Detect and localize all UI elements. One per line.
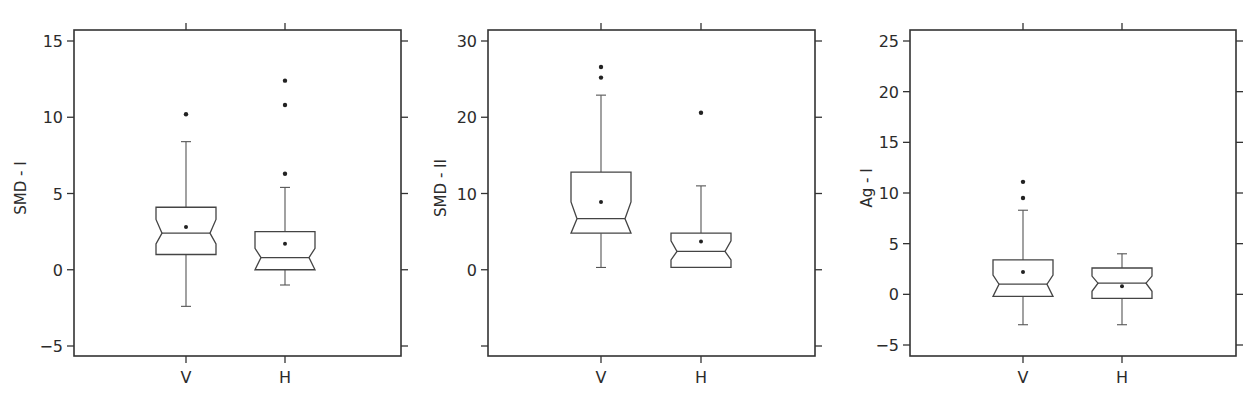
boxplot-figure: −5051015VHSMD - I 0102030VHSMD - II −505…: [0, 0, 1258, 405]
outlier-point: [599, 65, 603, 69]
y-tick-label: 15: [879, 133, 899, 152]
y-tick-label: 10: [457, 185, 477, 204]
mean-marker: [699, 240, 703, 244]
y-tick-label: 0: [53, 261, 63, 280]
notched-box: [993, 260, 1053, 296]
outlier-point: [1021, 196, 1025, 200]
y-tick-label: 5: [53, 185, 63, 204]
y-tick-label: 5: [889, 235, 899, 254]
panel-smd-ii: 0102030VHSMD - II: [432, 23, 822, 387]
box-v: [571, 65, 631, 268]
plot-frame: [488, 30, 815, 356]
outlier-point: [283, 78, 287, 82]
y-tick-label: 15: [43, 32, 63, 51]
y-tick-label: 0: [467, 261, 477, 280]
y-tick-label: 10: [879, 184, 899, 203]
y-tick-label: 10: [43, 108, 63, 127]
mean-marker: [1120, 284, 1124, 288]
plot-frame: [74, 30, 401, 356]
y-axis-label: SMD - II: [432, 159, 450, 217]
x-tick-label-v: V: [596, 368, 607, 387]
x-tick-label-v: V: [1018, 368, 1029, 387]
mean-marker: [599, 200, 603, 204]
x-tick-label-v: V: [181, 368, 192, 387]
x-tick-label-h: H: [695, 368, 707, 387]
y-axis-label: SMD - I: [12, 161, 30, 214]
outlier-point: [283, 171, 287, 175]
mean-marker: [283, 242, 287, 246]
x-tick-label-h: H: [1116, 368, 1128, 387]
y-tick-label: 0: [889, 285, 899, 304]
box-h: [255, 78, 315, 285]
notched-box: [671, 233, 731, 267]
outlier-point: [699, 110, 703, 114]
y-tick-label: −5: [39, 337, 63, 356]
y-tick-label: 30: [457, 32, 477, 51]
mean-marker: [1021, 270, 1025, 274]
x-tick-label-h: H: [279, 368, 291, 387]
mean-marker: [184, 225, 188, 229]
panel-ag-i: −50510152025VHAg - I: [858, 23, 1243, 387]
box-v: [993, 180, 1053, 325]
y-tick-label: 20: [879, 83, 899, 102]
y-tick-label: 20: [457, 108, 477, 127]
y-axis-label: Ag - I: [858, 168, 876, 207]
y-tick-label: 25: [879, 32, 899, 51]
plot-frame: [910, 30, 1236, 356]
outlier-point: [283, 103, 287, 107]
outlier-point: [599, 75, 603, 79]
box-h: [671, 110, 731, 267]
notched-box: [156, 207, 216, 254]
boxplot-canvas: −5051015VHSMD - I 0102030VHSMD - II −505…: [0, 0, 1258, 405]
box-v: [156, 112, 216, 306]
outlier-point: [184, 112, 188, 116]
y-tick-label: −5: [875, 336, 899, 355]
outlier-point: [1021, 180, 1025, 184]
panel-smd-i: −5051015VHSMD - I: [12, 23, 408, 387]
box-h: [1092, 254, 1152, 325]
notched-box: [255, 232, 315, 270]
